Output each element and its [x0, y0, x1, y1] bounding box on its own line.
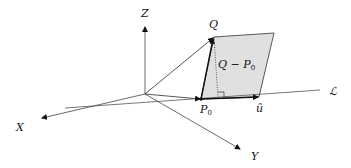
label-z: Z	[140, 7, 149, 20]
label-u-hat: û	[256, 102, 263, 115]
label-q-minus-p0: Q − P0	[218, 58, 255, 72]
label-y: Y	[251, 150, 260, 163]
diagram-canvas: Z X Y Q Q − P0 P0 û ℒ	[0, 0, 351, 168]
x-axis	[42, 94, 145, 118]
y-axis	[145, 94, 240, 149]
label-p0: P0	[199, 103, 212, 117]
line-l	[65, 90, 320, 108]
label-x: X	[15, 121, 25, 134]
position-vector-q	[145, 38, 213, 94]
label-line-l: ℒ	[329, 85, 338, 98]
point-p0-dot	[199, 97, 203, 101]
label-q: Q	[209, 18, 218, 31]
position-vector-p0	[145, 94, 200, 99]
